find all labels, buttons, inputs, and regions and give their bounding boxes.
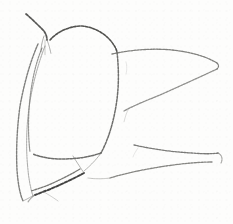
sketch-canvas bbox=[0, 0, 233, 224]
right-faint-speck-lower bbox=[133, 148, 138, 157]
lower-leaf-bottom-edge bbox=[110, 162, 212, 178]
lower-leaf-base-connector bbox=[88, 178, 110, 179]
lower-leaf-tip-hook bbox=[218, 153, 222, 163]
stem-join-bottom bbox=[23, 195, 34, 201]
junction-tick-right bbox=[47, 40, 51, 54]
lower-leaf-top-edge bbox=[134, 145, 218, 154]
upper-leaf-tip-hook bbox=[217, 63, 219, 69]
upper-leaf-bottom-edge bbox=[124, 69, 217, 111]
pencil-stroke-layer bbox=[17, 14, 222, 202]
right-faint-speck-upper bbox=[126, 62, 127, 74]
central-body-bottom-edge bbox=[33, 153, 101, 159]
bottom-loose-hatch bbox=[44, 192, 58, 201]
upper-leaf-inner-vein bbox=[124, 110, 128, 122]
bottom-wedge-upper-stroke bbox=[31, 169, 80, 191]
central-body-top-arch bbox=[50, 26, 117, 52]
upper-leaf-top-edge bbox=[112, 49, 217, 63]
sketch-drawing bbox=[0, 0, 233, 224]
bottom-wedge-dark-stroke bbox=[35, 173, 84, 195]
central-body-right-edge bbox=[101, 52, 118, 153]
